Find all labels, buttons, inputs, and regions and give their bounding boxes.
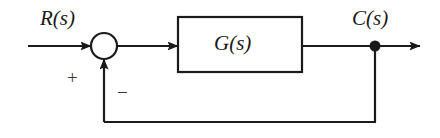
summing-junction xyxy=(91,33,117,59)
input-signal-label: R(s) xyxy=(40,8,75,29)
plant-block-label: G(s) xyxy=(214,33,251,54)
summing-plus-sign: + xyxy=(67,68,78,87)
block-diagram: R(s) C(s) G(s) + − xyxy=(0,0,440,138)
summing-minus-sign: − xyxy=(117,83,128,102)
output-signal-label: C(s) xyxy=(352,8,388,29)
